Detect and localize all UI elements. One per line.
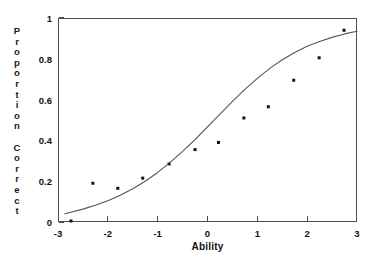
y-axis-tick-label: 0.4 xyxy=(26,135,52,146)
y-axis-tick-label: 0.6 xyxy=(26,94,52,105)
y-axis-label-glyph: t xyxy=(15,206,18,217)
x-axis-tick-label: 0 xyxy=(205,228,210,239)
chart-figure: Proportion Correct 00.20.40.60.81 -3-2-1… xyxy=(0,0,383,268)
x-axis-tick-mark xyxy=(307,216,308,221)
y-axis-label-glyph: e xyxy=(14,185,19,196)
x-axis-tick-mark xyxy=(157,216,158,221)
x-axis-tick-label: -2 xyxy=(104,228,112,239)
x-axis-tick-label: -3 xyxy=(54,228,62,239)
y-axis-label-glyph: P xyxy=(14,26,20,37)
x-axis-tick-label: 2 xyxy=(305,228,310,239)
plot-frame xyxy=(58,18,357,222)
x-axis-tick-mark xyxy=(107,216,108,221)
y-axis-label-glyph: r xyxy=(15,79,19,90)
y-axis-tick-label: 0.8 xyxy=(26,53,52,64)
y-axis-tick-label: 0.2 xyxy=(26,176,52,187)
x-axis-tick-label: -1 xyxy=(153,228,161,239)
y-axis-tick-label: 1 xyxy=(26,13,52,24)
x-axis-tick-label: 1 xyxy=(255,228,260,239)
y-axis-label-glyph xyxy=(16,132,19,143)
y-axis-label: Proportion Correct xyxy=(8,26,26,217)
x-axis-label: Ability xyxy=(58,241,357,252)
x-axis-tick-mark xyxy=(207,216,208,221)
x-axis-tick-mark xyxy=(257,216,258,221)
x-axis-tick-label: 3 xyxy=(354,228,359,239)
y-axis-tick-label: 0 xyxy=(26,217,52,228)
